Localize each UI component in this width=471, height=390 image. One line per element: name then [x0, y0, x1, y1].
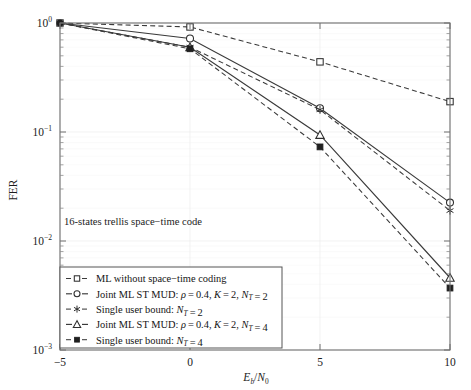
y-tick-exponent: −3	[44, 342, 52, 351]
marker-square-filled	[187, 46, 193, 52]
y-tick-label: 100	[37, 15, 53, 29]
x-tick-label: −5	[54, 356, 66, 368]
series-line	[60, 23, 450, 278]
y-tick-mantissa: 10	[32, 126, 44, 138]
y-tick-label: 10−2	[32, 233, 52, 247]
x-title-e: E	[242, 371, 250, 383]
y-tick-exponent: −2	[44, 233, 52, 242]
marker-square-filled	[317, 144, 323, 150]
series-line	[60, 23, 450, 288]
data-series	[57, 20, 453, 105]
y-tick-mantissa: 10	[32, 235, 44, 247]
x-tick-label: 0	[187, 356, 193, 368]
y-tick-mantissa: 10	[37, 17, 49, 29]
chart-svg: 10010−110−210−3 −50510 FER Eb/N0 16-stat…	[0, 0, 471, 390]
x-title-zero: 0	[265, 377, 269, 386]
legend-label: ML without space−time coding	[96, 273, 226, 284]
x-axis-title: Eb/N0	[242, 371, 269, 386]
marker-circle-open	[74, 291, 80, 297]
data-series	[60, 23, 454, 281]
svg-text:Eb/N0: Eb/N0	[242, 371, 269, 386]
series-line	[60, 23, 450, 211]
y-tick-exponent: −1	[44, 124, 52, 133]
marker-square-filled	[75, 337, 80, 342]
data-series	[60, 23, 453, 215]
legend: ML without space−time codingJoint ML ST …	[60, 267, 282, 348]
y-tick-label: 10−3	[32, 342, 52, 356]
y-tick-label: 10−1	[32, 124, 52, 138]
y-axis-title: FER	[7, 179, 19, 200]
data-series	[60, 23, 454, 206]
series-layer	[56, 19, 454, 291]
y-tick-exponent: 0	[48, 15, 52, 24]
marker-circle-open	[187, 35, 194, 42]
x-axis-tick-labels: −50510	[54, 356, 456, 368]
figure-container: 10010−110−210−3 −50510 FER Eb/N0 16-stat…	[0, 0, 471, 390]
y-tick-mantissa: 10	[32, 344, 44, 356]
data-series	[60, 23, 453, 291]
x-tick-label: 5	[317, 356, 323, 368]
x-tick-label: 10	[444, 356, 456, 368]
plot-annotation: 16-states trellis space−time code	[64, 216, 202, 227]
y-axis-tick-labels: 10010−110−210−3	[32, 15, 52, 356]
marker-square-open	[317, 59, 323, 65]
marker-square-open	[74, 276, 79, 281]
